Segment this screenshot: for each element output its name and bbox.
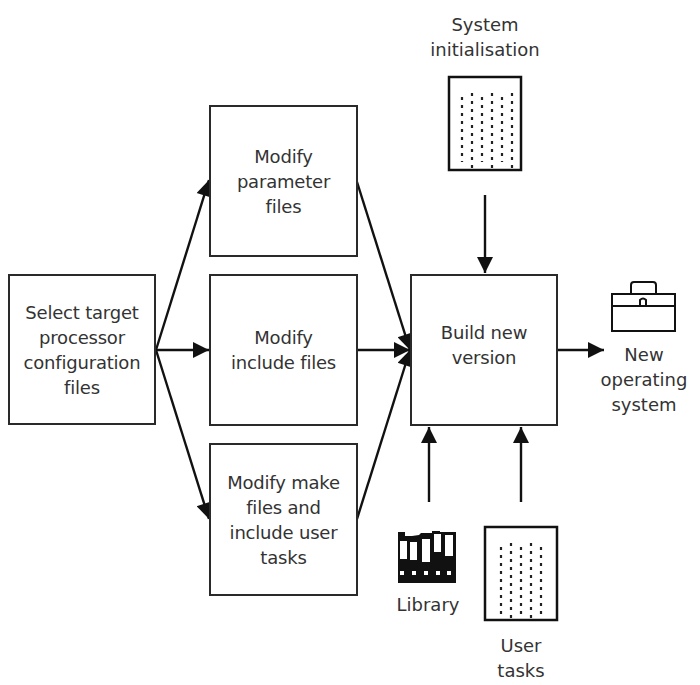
modify-make-files-box: Modify make files and include user tasks bbox=[209, 443, 358, 596]
edge-select-make bbox=[156, 350, 209, 519]
document-icon bbox=[485, 527, 557, 620]
edge-make-build bbox=[357, 350, 410, 519]
modify-make-files-label: Modify make files and include user tasks bbox=[227, 470, 340, 570]
edge-select-params bbox=[156, 180, 209, 350]
system-initialisation-label: System initialisation bbox=[415, 12, 555, 62]
modify-parameter-files-box: Modify parameter files bbox=[209, 105, 358, 257]
build-new-version-box: Build new version bbox=[410, 274, 558, 426]
diagram-canvas: Select target processor configuration fi… bbox=[0, 0, 700, 685]
modify-include-files-label: Modify include files bbox=[231, 325, 336, 375]
new-operating-system-label: New operating system bbox=[598, 342, 690, 417]
toolbox-icon bbox=[612, 282, 675, 331]
build-new-version-label: Build new version bbox=[441, 320, 527, 370]
library-binders-icon bbox=[398, 531, 456, 583]
select-config-files-box: Select target processor configuration fi… bbox=[8, 274, 156, 425]
edge-params-build bbox=[357, 182, 410, 350]
modify-include-files-box: Modify include files bbox=[209, 274, 358, 426]
modify-parameter-files-label: Modify parameter files bbox=[237, 144, 330, 219]
user-tasks-label: User tasks bbox=[480, 633, 562, 683]
library-label: Library bbox=[385, 592, 471, 617]
document-icon bbox=[449, 77, 521, 170]
select-config-files-label: Select target processor configuration fi… bbox=[24, 300, 141, 400]
